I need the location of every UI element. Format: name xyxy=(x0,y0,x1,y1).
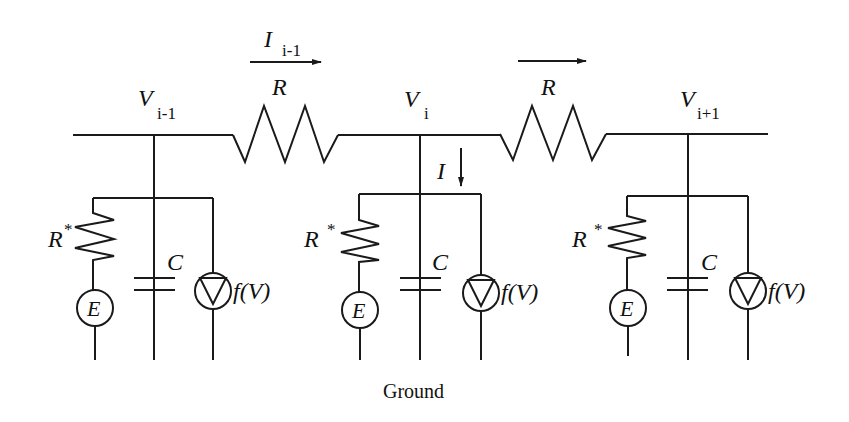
battery-label-middle: E xyxy=(351,298,366,323)
shunt-resistor-label-right: R xyxy=(571,226,587,252)
series-resistor-2 xyxy=(500,106,606,160)
shunt-resistor-label-left: R xyxy=(47,226,63,252)
series-resistor-1 xyxy=(233,106,338,162)
voltage-sub-right: i+1 xyxy=(697,104,720,123)
shunt-resistor-middle xyxy=(341,194,379,292)
capacitor-label-right: C xyxy=(701,249,718,275)
shunt-resistor-sup-left: * xyxy=(64,220,73,239)
ground-label: Ground xyxy=(383,380,444,402)
circuit-svg: V i-1 V i V i+1 I i-1 R R I R * E C f(V)… xyxy=(0,0,849,422)
capacitor-label-middle: C xyxy=(432,249,449,275)
cell-left xyxy=(75,135,231,360)
battery-label-left: E xyxy=(86,296,101,321)
source-label-left: f(V) xyxy=(233,278,270,304)
resistor-label-2: R xyxy=(540,74,556,100)
shunt-resistor-left xyxy=(75,198,114,291)
shunt-resistor-right xyxy=(608,196,646,290)
source-label-middle: f(V) xyxy=(501,279,538,305)
circuit-diagram: V i-1 V i V i+1 I i-1 R R I R * E C f(V)… xyxy=(0,0,849,422)
voltage-label-middle: V xyxy=(404,86,421,112)
voltage-sub-middle: i xyxy=(424,104,429,123)
voltage-label-right: V xyxy=(680,86,697,112)
voltage-sub-left: i-1 xyxy=(157,104,176,123)
shunt-resistor-label-middle: R xyxy=(303,226,319,252)
cell-right xyxy=(608,134,766,360)
shunt-current-label: I xyxy=(436,158,446,184)
shunt-resistor-sup-right: * xyxy=(594,220,603,239)
capacitor-label-left: C xyxy=(167,249,184,275)
resistor-label-1: R xyxy=(271,74,287,100)
shunt-resistor-sup-middle: * xyxy=(327,220,336,239)
voltage-label-left: V xyxy=(138,85,155,111)
source-label-right: f(V) xyxy=(768,278,805,304)
cell-middle xyxy=(341,135,499,360)
battery-label-right: E xyxy=(619,296,634,321)
current-sub-1: i-1 xyxy=(282,41,301,60)
current-label-1: I xyxy=(263,26,273,52)
